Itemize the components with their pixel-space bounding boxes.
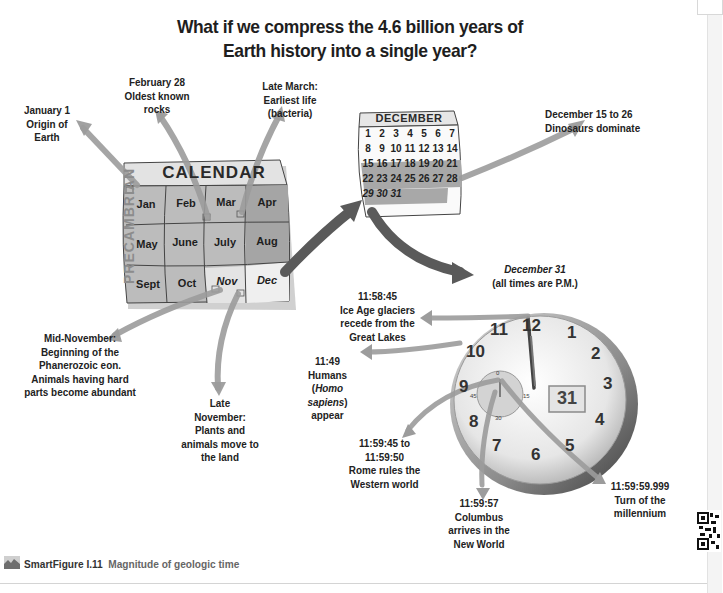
callout-line: Earliest life [254, 94, 326, 108]
callout-humans: 11:49 Humans (Homo sapiens) appear [294, 355, 362, 423]
callout-line: Dinosaurs dominate [545, 122, 644, 136]
callout-line: Turn of the [604, 494, 676, 508]
day-cell: 9 [375, 143, 389, 158]
december-days-grid: 1 2 3 4 5 6 7 8 9 10 11 12 13 14 15 16 1… [361, 128, 461, 203]
month-nov: Nov [210, 275, 244, 287]
callout-line: (Homo sapiens) [294, 382, 362, 409]
month-apr: Apr [251, 196, 283, 208]
callout-line: Late [175, 397, 265, 411]
callout-line: (bacteria) [254, 107, 326, 121]
callout-line: Mid-November: [17, 332, 143, 346]
subdial-0: 0 [496, 370, 499, 376]
day-cell: 11 [403, 143, 417, 158]
day-cell: 29 [361, 188, 375, 203]
callout-line: 11:59:50 [342, 451, 428, 465]
callout-line: Columbus [443, 511, 515, 525]
callout-line: January 1 [16, 104, 79, 118]
day-cell: 31 [389, 188, 403, 203]
callout-line: February 28 [117, 76, 198, 90]
callout-line: 11:58:45 [335, 290, 421, 304]
calendar-header: CALENDAR [144, 163, 284, 183]
month-jan: Jan [130, 198, 162, 210]
day-cell: 6 [431, 128, 445, 143]
day-cell: 13 [431, 143, 445, 158]
day-cell: 2 [375, 128, 389, 143]
callout-rome: 11:59:45 to 11:59:50 Rome rules the West… [342, 437, 428, 491]
day-cell: 8 [361, 143, 375, 158]
clock-number-10: 10 [466, 342, 485, 362]
day-cell: 25 [403, 173, 417, 188]
callout-line: Phanerozoic eon. [17, 359, 143, 373]
callout-line: 11:59:45 to [342, 437, 428, 451]
callout-line: Ice Age glaciers [335, 304, 421, 318]
subdial-30: 30 [495, 415, 502, 421]
callout-line: Western world [342, 478, 428, 492]
callout-january-1: January 1 Origin of Earth [16, 104, 79, 145]
day-cell: 21 [445, 158, 459, 173]
month-oct: Oct [170, 277, 204, 289]
day-cell: 24 [389, 173, 403, 188]
day-cell: 14 [445, 143, 459, 158]
paren-close: ) [344, 396, 347, 408]
callout-line: Animals having hard [17, 373, 143, 387]
callout-line: 11:49 [294, 355, 362, 369]
day-cell: 18 [403, 158, 417, 173]
day-cell: 27 [431, 173, 445, 188]
day-cell: 5 [417, 128, 431, 143]
clock-number-7: 7 [492, 436, 501, 456]
month-aug: Aug [250, 235, 284, 247]
callout-line: the land [175, 451, 265, 465]
smartfigure-icon [4, 556, 20, 569]
day-cell: 28 [445, 173, 459, 188]
month-sept: Sept [131, 278, 165, 290]
day-cell: 16 [375, 158, 389, 173]
figure-caption: SmartFigure I.11Magnitude of geologic ti… [24, 557, 239, 571]
callout-line: December 15 to 26 [545, 108, 644, 122]
subdial-15: 15 [523, 393, 530, 399]
qr-code[interactable] [697, 510, 721, 552]
callout-late-november: Late November: Plants and animals move t… [175, 397, 265, 465]
callout-line: animals move to [175, 438, 265, 452]
day-cell: 26 [417, 173, 431, 188]
clock-number-3: 3 [603, 374, 612, 394]
callout-line: Great Lakes [335, 331, 421, 345]
callout-ice-age: 11:58:45 Ice Age glaciers recede from th… [335, 290, 421, 344]
clock-number-8: 8 [469, 412, 478, 432]
december-header: DECEMBER [362, 112, 456, 124]
clock-number-5: 5 [565, 436, 574, 456]
callout-line: parts become abundant [17, 386, 143, 400]
day-cell: 10 [389, 143, 403, 158]
day-cell: 30 [375, 188, 389, 203]
callout-line: Oldest known [117, 90, 198, 104]
callout-february-28: February 28 Oldest known rocks [117, 76, 198, 117]
day-cell: 4 [403, 128, 417, 143]
day-cell: 23 [375, 173, 389, 188]
day-cell: 17 [389, 158, 403, 173]
callout-line: millennium [604, 507, 676, 521]
callout-line: rocks [117, 103, 198, 117]
month-feb: Feb [170, 197, 202, 209]
clock-number-11: 11 [490, 320, 508, 340]
callout-line: 11:59:57 [443, 497, 515, 511]
callout-late-march: Late March: Earliest life (bacteria) [254, 80, 326, 121]
clock-date-window: 31 [549, 388, 585, 409]
subdial-45: 45 [470, 393, 477, 399]
callout-line: Plants and [175, 424, 265, 438]
callout-line: December 31 [477, 263, 594, 277]
callout-line: Late March: [254, 80, 326, 94]
callout-line: recede from the [335, 317, 421, 331]
month-dec: Dec [250, 274, 284, 286]
callout-december-31: December 31 (all times are P.M.) [477, 263, 594, 290]
callout-columbus: 11:59:57 Columbus arrives in the New Wor… [443, 497, 515, 551]
day-cell: 20 [431, 158, 445, 173]
clock-number-2: 2 [591, 344, 600, 364]
clock [450, 313, 638, 495]
day-cell: 3 [389, 128, 403, 143]
clock-number-4: 4 [595, 410, 604, 430]
callout-december-15: December 15 to 26 Dinosaurs dominate [545, 108, 644, 135]
callout-line: 11:59:59.999 [604, 480, 676, 494]
day-cell: 15 [361, 158, 375, 173]
day-cell: 19 [417, 158, 431, 173]
day-cell: 22 [361, 173, 375, 188]
bottom-rule [0, 583, 707, 584]
